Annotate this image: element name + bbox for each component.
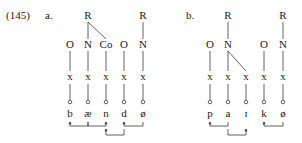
skeletal-slot: x	[67, 70, 73, 82]
root-node-circle	[208, 100, 212, 104]
root-node-circle	[281, 100, 285, 104]
segment: æ	[84, 107, 91, 119]
root-node-circle	[262, 100, 266, 104]
segment: ø	[140, 107, 146, 119]
skeletal-slot: x	[261, 70, 267, 82]
constituent-node: Co	[100, 38, 113, 50]
arrowhead-icon	[262, 122, 265, 125]
arrowhead-icon	[68, 122, 71, 125]
panel-b: b. RRONONxxxxxpaɪkø	[186, 9, 287, 135]
root-node-circle	[86, 100, 90, 104]
spreading-arrow	[124, 122, 143, 126]
constituent-node: O	[260, 38, 268, 50]
skeletal-slot: x	[225, 70, 231, 82]
segment: d	[121, 107, 127, 119]
constituent-node: N	[84, 38, 92, 50]
segment: n	[103, 107, 109, 119]
segment: a	[226, 107, 231, 119]
rhyme-node: R	[224, 9, 232, 21]
segment: ɪ	[244, 107, 247, 119]
constituent-node: N	[224, 38, 232, 50]
constituent-node: O	[120, 38, 128, 50]
example-number: (145)	[6, 9, 30, 22]
skeletal-slot: x	[207, 70, 213, 82]
skeletal-slot: x	[103, 70, 109, 82]
skeletal-slot: x	[243, 70, 249, 82]
autosegmental-diagram: (145) a. RRONCoONxxxxxbændø b. RRONONxxx…	[0, 0, 302, 143]
rhyme-node: R	[139, 9, 147, 21]
spreading-arrow	[106, 129, 124, 135]
root-node-circle	[226, 100, 230, 104]
association-line-diagonal	[228, 51, 246, 71]
arrowhead-icon	[104, 129, 107, 132]
spreading-arrow	[88, 122, 106, 126]
arrowhead-icon	[104, 122, 107, 125]
constituent-node: N	[139, 38, 147, 50]
arrowhead-icon	[122, 122, 125, 125]
constituent-node: O	[206, 38, 214, 50]
constituent-node: O	[66, 38, 74, 50]
spreading-arrow	[70, 122, 88, 126]
root-node-circle	[122, 100, 126, 104]
arrowhead-icon	[208, 122, 211, 125]
rhyme-node: R	[279, 9, 287, 21]
spreading-arrow	[210, 122, 228, 126]
segment: k	[261, 107, 267, 119]
root-node-circle	[244, 100, 248, 104]
root-node-circle	[141, 100, 145, 104]
segment: b	[67, 107, 73, 119]
panel-label: a.	[45, 9, 53, 21]
segment: p	[207, 107, 213, 119]
constituent-node: N	[279, 38, 287, 50]
root-node-circle	[104, 100, 108, 104]
spreading-arrow	[264, 122, 283, 126]
arrowhead-icon	[244, 129, 247, 132]
skeletal-slot: x	[280, 70, 286, 82]
rhyme-node: R	[84, 9, 92, 21]
association-line-diagonal	[88, 22, 106, 39]
segment: ø	[280, 107, 286, 119]
skeletal-slot: x	[85, 70, 91, 82]
skeletal-slot: x	[121, 70, 127, 82]
root-node-circle	[68, 100, 72, 104]
panel-a: a. RRONCoONxxxxxbændø	[45, 9, 147, 135]
spreading-arrow	[228, 129, 246, 135]
skeletal-slot: x	[140, 70, 146, 82]
panel-label: b.	[186, 9, 195, 21]
